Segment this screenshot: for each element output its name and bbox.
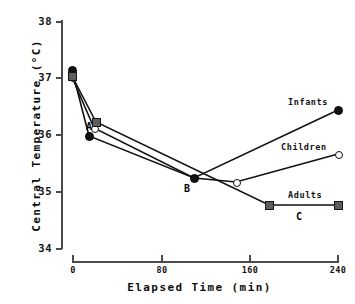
x-tick-240	[337, 255, 339, 261]
series-line-infants	[72, 70, 338, 178]
y-tick-34	[56, 248, 62, 250]
plot-lines-layer	[0, 0, 355, 304]
y-tick-36	[56, 134, 62, 136]
data-point-adults-3	[334, 201, 343, 210]
data-point-adults-0	[68, 72, 77, 81]
series-label-children: Children	[281, 142, 327, 152]
x-tick-label-240: 240	[318, 265, 355, 275]
data-point-infants-3	[334, 106, 343, 115]
series-label-infants: Infants	[288, 97, 328, 107]
series-line-adults	[72, 76, 338, 205]
y-axis-title: Central Temperature (°C)	[30, 16, 43, 256]
x-axis-title: Elapsed Time (min)	[0, 281, 355, 294]
x-tick-label-0: 0	[53, 265, 93, 275]
data-point-children-3	[233, 179, 241, 187]
figure-caption	[18, 296, 348, 304]
data-point-adults-2	[265, 201, 274, 210]
x-axis-line	[72, 261, 339, 263]
chart-figure: 38 37 36 35 34 0 80 160 240 Central Temp…	[0, 0, 355, 304]
x-tick-160	[249, 255, 251, 261]
data-point-children-4	[335, 151, 343, 159]
x-tick-0	[72, 255, 74, 261]
y-tick-37	[56, 77, 62, 79]
y-tick-38	[56, 21, 62, 23]
y-tick-35	[56, 191, 62, 193]
annotation-a: A	[86, 121, 93, 132]
x-tick-80	[161, 255, 163, 261]
data-point-infants-1	[85, 132, 94, 141]
x-tick-label-80: 80	[142, 265, 182, 275]
data-point-infants-2	[190, 174, 199, 183]
series-label-adults: Adults	[288, 190, 322, 200]
data-point-adults-1	[92, 118, 101, 127]
annotation-c: C	[296, 211, 303, 222]
x-tick-label-160: 160	[230, 265, 270, 275]
annotation-b: B	[184, 183, 191, 194]
series-line-children	[72, 77, 338, 182]
